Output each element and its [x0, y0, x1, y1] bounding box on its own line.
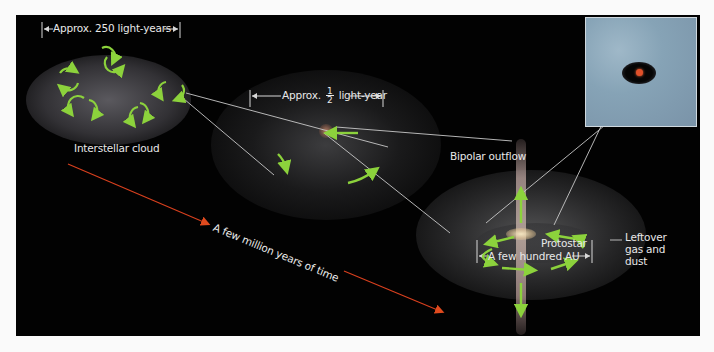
interstellar-cloud-label: Interstellar cloud [74, 142, 159, 154]
fraction-one-half: 1 2 [326, 87, 334, 104]
protostar-inset-image [585, 17, 697, 127]
protostar-label: Protostar [541, 237, 587, 249]
diagram-panel: Approx. 250 light-years Interstellar clo… [16, 15, 700, 336]
core-scale-suffix: light-year [339, 89, 387, 101]
core-scale-label: Approx. 1 2 light-year [282, 87, 387, 104]
leftover-gas-label: Leftover gas and dust [625, 231, 667, 267]
core-scale-prefix: Approx. [282, 89, 321, 101]
cloud-scale-label: Approx. 250 light-years [53, 22, 171, 34]
inset-protostar-dot [636, 69, 643, 76]
bipolar-outflow-label: Bipolar outflow [450, 150, 526, 162]
disk-scale-label: A few hundred AU [488, 250, 579, 262]
